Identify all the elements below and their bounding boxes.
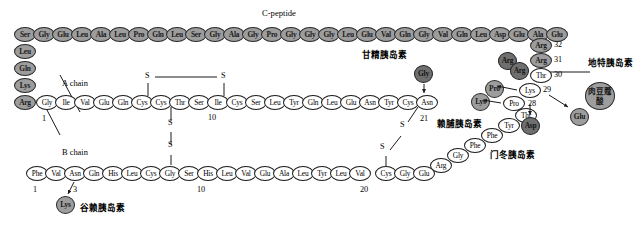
annotation-arrows bbox=[0, 0, 627, 225]
insulin-analog-diagram: C-peptide Ser Gly Glu Leu Ala Leu Pro Gl… bbox=[0, 0, 627, 225]
